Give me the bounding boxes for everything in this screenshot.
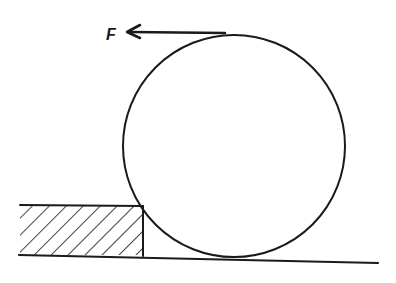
wheel-step-diagram: F — [0, 0, 396, 283]
ground-line — [19, 255, 378, 263]
force-label: F — [106, 26, 117, 43]
wheel-circle — [123, 35, 345, 257]
force-arrow — [127, 25, 225, 38]
step-block — [20, 205, 143, 256]
